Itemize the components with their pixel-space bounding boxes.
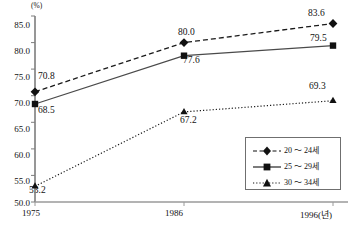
series-marker-30to34-1975 (31, 182, 38, 188)
series-marker-25to29-1975 (32, 101, 38, 107)
series-marker-25to29-1996 (330, 42, 336, 48)
series-marker-30to34-1996 (329, 97, 336, 103)
legend-item-25to29: 25 ～ 29세 (246, 157, 340, 173)
legend-symbol-square-solid (252, 159, 282, 171)
legend-item-20to24: 20 ～ 24세 (246, 141, 340, 157)
series-marker-30to34-1986 (180, 108, 187, 114)
plot-area (0, 0, 360, 225)
legend-symbol-diamond-dashed (252, 143, 282, 155)
line-chart: (%) 85.0 80.0 75.0 70.0 65.0 60.0 55.0 5… (0, 0, 360, 225)
legend-label-30to34: 30 ～ 34세 (284, 176, 319, 187)
legend: 20 ～ 24세 25 ～ 29세 30 ～ 34세 (245, 137, 341, 190)
legend-item-30to34: 30 ～ 34세 (246, 173, 340, 189)
series-marker-20to24-1975 (31, 87, 40, 96)
series-marker-20to24-1996 (329, 19, 338, 28)
legend-label-20to24: 20 ～ 24세 (284, 144, 319, 155)
legend-symbol-triangle-dotted (252, 175, 282, 187)
series-marker-20to24-1986 (180, 38, 189, 47)
series-marker-25to29-1986 (181, 53, 187, 59)
legend-label-25to29: 25 ～ 29세 (284, 160, 319, 171)
